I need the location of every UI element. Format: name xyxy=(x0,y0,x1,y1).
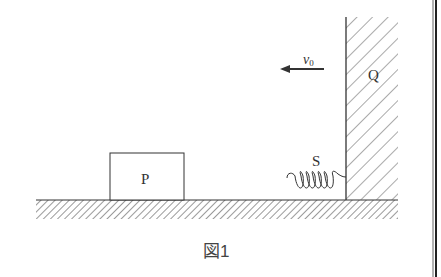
block-label: P xyxy=(141,171,149,187)
figure-caption: 図1 xyxy=(203,242,229,261)
ground xyxy=(36,200,398,219)
physics-diagram: v0 Q S P 図1 xyxy=(0,0,441,277)
page-border xyxy=(433,0,436,277)
spring-s xyxy=(287,171,346,188)
velocity-arrow xyxy=(280,65,324,73)
velocity-label: v0 xyxy=(303,52,314,68)
wall-label: Q xyxy=(368,67,379,83)
wall-q xyxy=(346,17,398,200)
spring-label: S xyxy=(312,153,320,169)
